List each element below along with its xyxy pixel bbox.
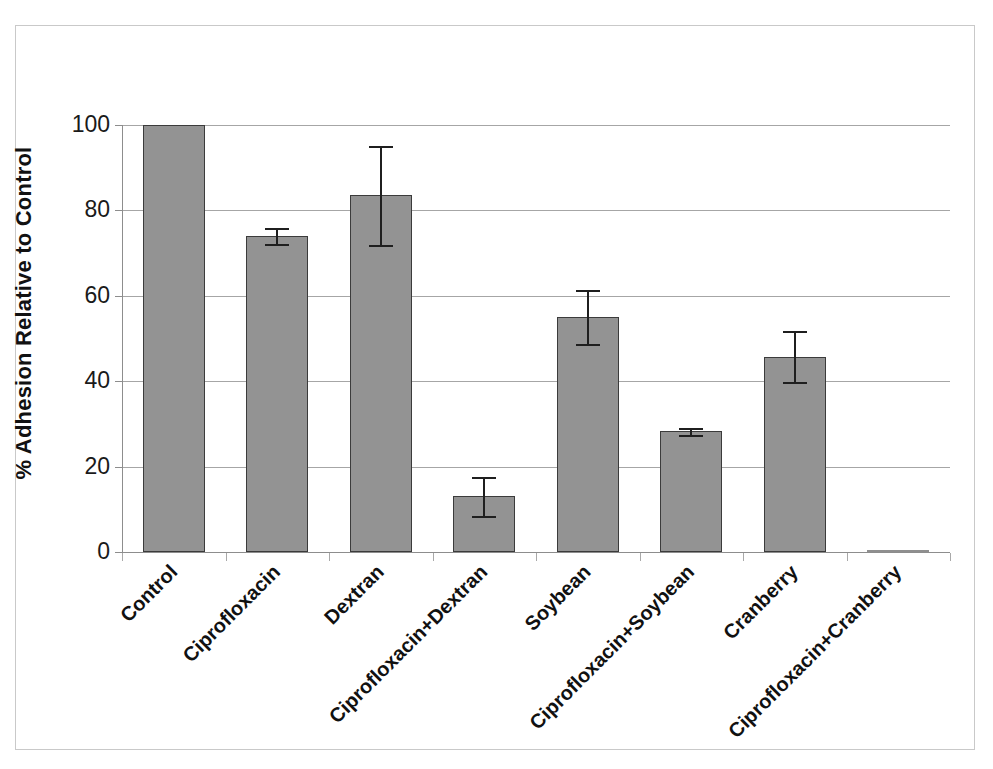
y-axis-tick-label: 60 [50,284,110,307]
y-axis-tick-label: 80 [50,198,110,221]
error-bar-cap-upper [576,290,600,292]
y-axis-line [122,125,123,552]
y-axis-tick-label: 20 [50,455,110,478]
bar [143,125,205,552]
x-axis-tick [226,553,227,561]
y-axis-tick [115,552,122,553]
error-bar-line [587,290,589,344]
y-axis-tick [115,467,122,468]
plot-area [122,125,950,552]
gridline [122,210,950,211]
error-bar-line [483,477,485,515]
x-axis-tick [743,553,744,561]
error-bar-line [380,146,382,244]
error-bar-cap-upper [265,228,289,230]
error-bar-line [794,331,796,382]
bar [764,357,826,552]
y-axis-tick-labels: 020406080100 [40,0,110,769]
bar [557,317,619,552]
y-axis-tick [115,210,122,211]
error-bar-cap-upper [369,146,393,148]
x-axis-tick [640,553,641,561]
y-axis-tick-label: 40 [50,369,110,392]
error-bar-cap-lower [679,435,703,437]
error-bar-cap-upper [472,477,496,479]
x-axis-tick [847,553,848,561]
error-bar-cap-lower [472,516,496,518]
y-axis-title: % Adhesion Relative to Control [11,53,37,573]
y-axis-tick [115,381,122,382]
error-bar-cap-lower [576,344,600,346]
error-bar-line [276,228,278,243]
x-axis-tick [536,553,537,561]
figure-canvas: 020406080100 % Adhesion Relative to Cont… [0,0,993,769]
x-axis-tick [122,553,123,561]
error-bar-cap-upper [679,428,703,430]
gridline [122,125,950,126]
bar [246,236,308,552]
x-axis-tick [950,553,951,561]
y-axis-tick [115,296,122,297]
error-bar-cap-lower [265,244,289,246]
error-bar-cap-lower [369,245,393,247]
error-bar-cap-upper [783,331,807,333]
x-axis-tick [433,553,434,561]
y-axis-tick-label: 100 [50,113,110,136]
y-axis-tick-label: 0 [50,540,110,563]
bar [660,431,722,552]
x-axis-tick [329,553,330,561]
y-axis-tick [115,125,122,126]
bar [350,195,412,552]
error-bar-cap-lower [783,382,807,384]
